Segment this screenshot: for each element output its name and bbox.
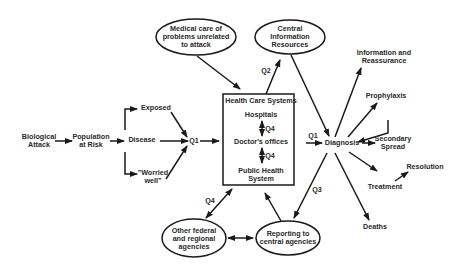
- q4-label-a: Q4: [265, 125, 275, 133]
- reporting-label: Reporting to central agencies: [260, 229, 316, 246]
- worried-well-label: "Worried well": [138, 168, 168, 185]
- disease-label: Disease: [128, 135, 155, 144]
- node-hospitals: Hospitals: [245, 111, 277, 119]
- q4-a-text: Q4: [265, 124, 275, 133]
- q2-text: Q2: [261, 66, 271, 75]
- q1-left-text: Q1: [189, 136, 199, 145]
- information-reassurance-label: Information and Reassurance: [357, 48, 411, 65]
- node-prophylaxis: Prophylaxis: [366, 92, 407, 100]
- node-worried-well: "Worried well": [138, 169, 168, 185]
- node-secondary-spread: Secondary Spread: [375, 135, 412, 151]
- prophylaxis-label: Prophylaxis: [366, 91, 407, 100]
- deaths-label: Deaths: [363, 222, 387, 231]
- diagnosis-label: Diagnosis: [325, 138, 359, 147]
- q4-b-text: Q4: [265, 151, 275, 160]
- node-biological-attack: Biological Attack: [22, 133, 56, 149]
- node-resolution: Resolution: [406, 163, 443, 171]
- node-deaths: Deaths: [363, 223, 387, 231]
- node-public-health: Public Health System: [238, 167, 284, 183]
- node-exposed: Exposed: [141, 104, 171, 112]
- other-agencies-label: Other federal and regional agencies: [172, 226, 217, 251]
- population-at-risk-label: Population at Risk: [72, 132, 109, 149]
- q4-c-text: Q4: [205, 196, 215, 205]
- biological-attack-label: Biological Attack: [22, 132, 56, 149]
- hospitals-label: Hospitals: [245, 110, 277, 119]
- resolution-label: Resolution: [406, 162, 443, 171]
- public-health-label: Public Health System: [238, 166, 284, 183]
- node-population-at-risk: Population at Risk: [72, 133, 109, 149]
- medical-care-label: Medical care of problems unrelated to at…: [163, 24, 230, 49]
- node-central-information: Central Information Resources: [270, 25, 310, 50]
- q1-right-label: Q1: [308, 132, 318, 140]
- node-disease: Disease: [128, 136, 155, 144]
- node-information-reassurance: Information and Reassurance: [357, 49, 411, 65]
- q1-left-label: Q1: [189, 137, 199, 145]
- node-medical-care: Medical care of problems unrelated to at…: [163, 25, 230, 50]
- biological-attack-flow-diagram: Biological Attack Population at Risk Exp…: [0, 0, 466, 274]
- health-care-title: Health Care Systems: [225, 97, 297, 105]
- node-treatment: Treatment: [368, 183, 402, 191]
- q1-right-text: Q1: [308, 131, 318, 140]
- q3-text: Q3: [312, 185, 322, 194]
- doctors-offices-label: Doctor's offices: [234, 137, 288, 146]
- treatment-label: Treatment: [368, 182, 402, 191]
- node-diagnosis: Diagnosis: [325, 139, 359, 147]
- q4-label-c: Q4: [205, 197, 215, 205]
- health-care-title-text: Health Care Systems: [225, 96, 297, 105]
- q3-label: Q3: [312, 186, 322, 194]
- node-other-agencies: Other federal and regional agencies: [172, 227, 217, 252]
- q2-label: Q2: [261, 67, 271, 75]
- node-doctors-offices: Doctor's offices: [234, 138, 288, 146]
- central-information-label: Central Information Resources: [270, 24, 310, 49]
- q4-label-b: Q4: [265, 152, 275, 160]
- secondary-spread-label: Secondary Spread: [375, 134, 412, 151]
- exposed-label: Exposed: [141, 103, 171, 112]
- node-reporting: Reporting to central agencies: [260, 230, 316, 246]
